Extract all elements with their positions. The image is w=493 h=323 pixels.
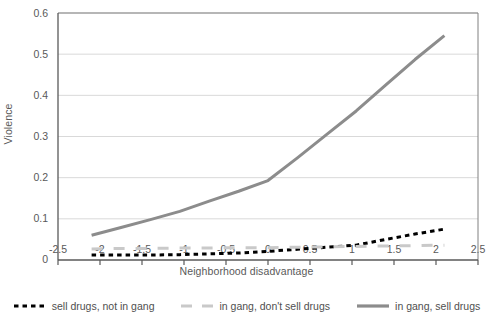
legend-item[interactable]: in gang, sell drugs [356,300,480,312]
chart-legend: sell drugs, not in gang in gang, don't s… [0,296,493,316]
dashed-black-line-icon [13,301,47,311]
dashed-gray-line-icon [180,301,214,311]
data-series-layer [92,36,445,255]
legend-label: in gang, sell drugs [395,300,480,312]
gridlines [58,13,478,219]
x-tick-marks [58,260,478,265]
legend-item[interactable]: in gang, don't sell drugs [180,300,330,312]
legend-label: sell drugs, not in gang [52,300,155,312]
legend-item[interactable]: sell drugs, not in gang [13,300,155,312]
violence-line-chart: Violence Neighborhood disadvantage 0.6 0… [0,0,493,323]
plot-area [0,0,493,323]
solid-gray-line-icon [356,301,390,311]
legend-label: in gang, don't sell drugs [219,300,330,312]
